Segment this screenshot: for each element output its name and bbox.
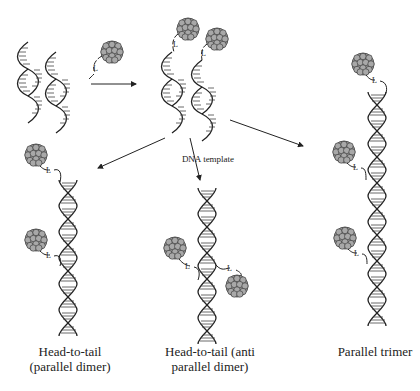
caption-parallel-dimer-line1: Head-to-tail (20, 344, 120, 359)
svg-text:L: L (185, 262, 190, 271)
svg-text:L: L (173, 40, 178, 49)
svg-text:L: L (46, 251, 51, 260)
caption-anti-line2: parallel dimer) (150, 359, 270, 374)
svg-text:L: L (201, 49, 206, 58)
svg-text:L: L (354, 249, 359, 258)
svg-text:L: L (353, 163, 358, 172)
svg-text:L: L (372, 76, 377, 85)
svg-text:L: L (227, 264, 232, 273)
diagram-svg: L L L L L L L (0, 0, 420, 391)
caption-parallel-trimer: Parallel trimer (330, 344, 420, 359)
caption-parallel-dimer: Head-to-tail (parallel dimer) (20, 344, 120, 374)
diagram-canvas: L L L L L L L (0, 0, 420, 391)
head-to-tail-anti (164, 188, 248, 344)
np-linker (89, 41, 123, 79)
caption-anti-parallel-dimer: Head-to-tail (anti parallel dimer) (150, 344, 270, 374)
arrow-to-parallel-dimer (98, 138, 165, 168)
parallel-trimer (333, 53, 387, 326)
ssdna-strands (18, 42, 71, 133)
caption-anti-line1: Head-to-tail (anti (150, 344, 270, 359)
caption-parallel-dimer-line2: (parallel dimer) (20, 359, 120, 374)
arrow-to-trimer (230, 120, 303, 146)
dna-template-label: DNA template (168, 152, 248, 167)
head-to-tail-parallel (25, 144, 77, 336)
svg-text:L: L (46, 166, 51, 175)
np-dna-conjugates: L L (162, 18, 229, 141)
linker-label: L (93, 64, 98, 73)
